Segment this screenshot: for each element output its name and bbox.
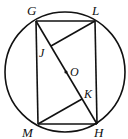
label-o: O [70,65,79,79]
label-k: K [83,87,93,101]
label-m: M [21,125,34,139]
label-j: J [39,46,45,60]
label-g: G [27,3,37,18]
label-h: H [93,125,104,139]
geometry-diagram: G L M H J K O [0,0,128,139]
segment-mk [38,99,82,124]
center-point-o [64,70,67,73]
segment-lj [51,21,95,46]
segment-mg [36,21,38,124]
label-l: L [91,3,99,18]
segment-lh [95,21,97,124]
